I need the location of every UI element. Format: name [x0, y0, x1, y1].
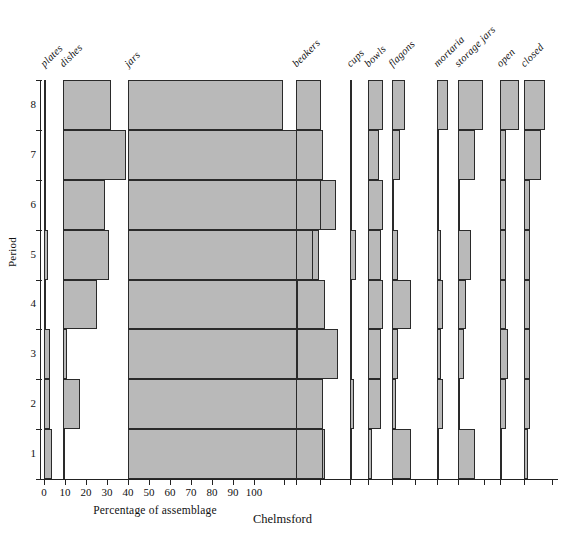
y-axis-title: Period [6, 212, 18, 292]
bar-open-period-7 [500, 130, 506, 180]
y-tick-mark [36, 180, 42, 181]
x-tick-mark [86, 480, 87, 485]
bar-cups-period-8 [350, 80, 352, 130]
bar-storage-jars-period-3 [458, 329, 464, 379]
y-tick-mark [36, 379, 42, 380]
bar-jars-period-8 [128, 80, 283, 130]
column-header-open: open [494, 46, 517, 69]
bar-bowls-period-3 [368, 329, 381, 379]
x-tick-mark [233, 480, 234, 485]
bar-plates-period-3 [44, 329, 50, 379]
bar-dishes-period-1 [63, 429, 65, 479]
chart-canvas: platesdishesjarsbeakerscupsbowlsflagonsm… [0, 0, 565, 541]
bar-dishes-period-6 [63, 180, 105, 230]
bar-cups-period-1 [350, 429, 352, 479]
bar-jars-period-2 [128, 379, 317, 429]
bar-plates-period-4 [44, 280, 46, 330]
bar-closed-period-3 [524, 329, 530, 379]
bar-open-period-6 [500, 180, 506, 230]
bar-beakers-period-6 [296, 180, 321, 230]
column-header-closed: closed [518, 41, 546, 69]
y-tick-mark [36, 130, 42, 131]
bar-flagons-period-5 [392, 230, 398, 280]
y-tick-label-period-3: 3 [18, 347, 36, 359]
bar-bowls-period-8 [368, 80, 383, 130]
y-tick-mark [36, 80, 42, 81]
bar-mortaria-period-7 [437, 130, 439, 180]
bar-mortaria-period-1 [437, 429, 439, 479]
bar-dishes-period-2 [63, 379, 80, 429]
y-tick-label-period-4: 4 [18, 297, 36, 309]
x-tick-mark [484, 480, 485, 485]
bar-open-period-1 [500, 429, 502, 479]
x-tick-mark [191, 480, 192, 485]
x-tick-mark [368, 480, 369, 485]
bar-mortaria-period-2 [437, 379, 443, 429]
bar-cups-period-4 [350, 280, 352, 330]
x-tick-mark [107, 480, 108, 485]
column-header-beakers: beakers [290, 37, 322, 69]
bar-jars-period-5 [128, 230, 319, 280]
bar-open-period-5 [500, 230, 506, 280]
x-tick-mark [320, 480, 321, 485]
bar-closed-period-1 [524, 429, 528, 479]
bar-dishes-period-4 [63, 280, 97, 330]
x-tick-mark [296, 480, 297, 485]
bar-flagons-period-8 [392, 80, 405, 130]
bar-open-period-8 [500, 80, 519, 130]
bar-storage-jars-period-4 [458, 280, 466, 330]
x-tick-mark [392, 480, 393, 485]
y-tick-mark [36, 280, 42, 281]
bar-closed-period-5 [524, 230, 530, 280]
x-tick-mark [500, 480, 501, 485]
column-header-flagons: flagons [386, 38, 417, 69]
bar-flagons-period-4 [392, 280, 411, 330]
bar-flagons-period-2 [392, 379, 396, 429]
bar-plates-period-1 [44, 429, 52, 479]
bar-beakers-period-1 [296, 429, 323, 479]
x-tick-mark [128, 480, 129, 485]
y-tick-label-period-8: 8 [18, 98, 36, 110]
bar-beakers-period-7 [296, 130, 323, 180]
bar-storage-jars-period-8 [458, 80, 483, 130]
y-tick-label-period-5: 5 [18, 248, 36, 260]
bar-flagons-period-6 [392, 180, 394, 230]
bar-closed-period-6 [524, 180, 530, 230]
bar-plates-period-8 [44, 80, 46, 130]
bar-mortaria-period-8 [437, 80, 448, 130]
bar-dishes-period-5 [63, 230, 109, 280]
bar-closed-period-4 [524, 280, 530, 330]
figure-caption: Chelmsford [0, 512, 565, 527]
x-tick-mark [65, 480, 66, 485]
bar-open-period-4 [500, 280, 506, 330]
bar-bowls-period-6 [368, 180, 383, 230]
bar-open-period-2 [500, 379, 506, 429]
bar-flagons-period-1 [392, 429, 411, 479]
y-tick-label-period-2: 2 [18, 397, 36, 409]
x-tick-mark [284, 480, 285, 485]
bar-mortaria-period-6 [437, 180, 439, 230]
bar-plates-period-7 [44, 130, 46, 180]
bar-flagons-period-7 [392, 130, 400, 180]
bar-storage-jars-period-7 [458, 130, 475, 180]
x-tick-mark [552, 480, 553, 485]
bar-closed-period-2 [524, 379, 530, 429]
bar-mortaria-period-5 [437, 230, 441, 280]
bar-closed-period-8 [524, 80, 545, 130]
x-tick-label-100: 100 [241, 486, 267, 498]
column-header-jars: jars [122, 49, 142, 69]
x-tick-mark [212, 480, 213, 485]
bar-beakers-period-4 [296, 280, 298, 330]
bar-beakers-period-2 [296, 379, 323, 429]
y-tick-label-period-7: 7 [18, 148, 36, 160]
bar-plates-period-6 [44, 180, 46, 230]
x-tick-mark [350, 480, 351, 485]
y-tick-mark [36, 329, 42, 330]
bar-bowls-period-7 [368, 130, 379, 180]
bar-jars-period-7 [128, 130, 311, 180]
x-tick-mark [170, 480, 171, 485]
column-header-dishes: dishes [57, 42, 84, 69]
bar-dishes-period-8 [63, 80, 111, 130]
bar-storage-jars-period-6 [458, 180, 460, 230]
y-tick-mark [36, 429, 42, 430]
